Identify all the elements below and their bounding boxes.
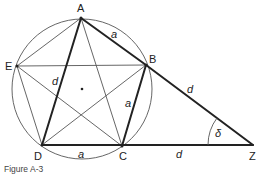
pentagram-figure: A B C D E Z a d a a d d δ Figure A-3 [0, 0, 263, 174]
vertex-label-a: A [77, 2, 85, 14]
segment-label-dc: a [78, 148, 84, 160]
vertex-label-z: Z [249, 150, 256, 162]
segment-label-cz: d [176, 148, 183, 160]
vertex-label-c: C [119, 150, 127, 162]
vertex-label-e: E [5, 60, 12, 72]
figure-caption: Figure A-3 [4, 164, 43, 174]
segment-label-ab: a [111, 28, 117, 40]
vertex-label-b: B [149, 53, 156, 65]
thick-lines [42, 18, 253, 146]
segment-label-ad: d [52, 75, 59, 87]
segment-label-bz: d [187, 83, 194, 95]
vertex-label-d: D [34, 150, 42, 162]
center-dot [81, 88, 84, 91]
segment-label-bc: a [125, 97, 131, 109]
angle-label-delta: δ [215, 127, 222, 139]
